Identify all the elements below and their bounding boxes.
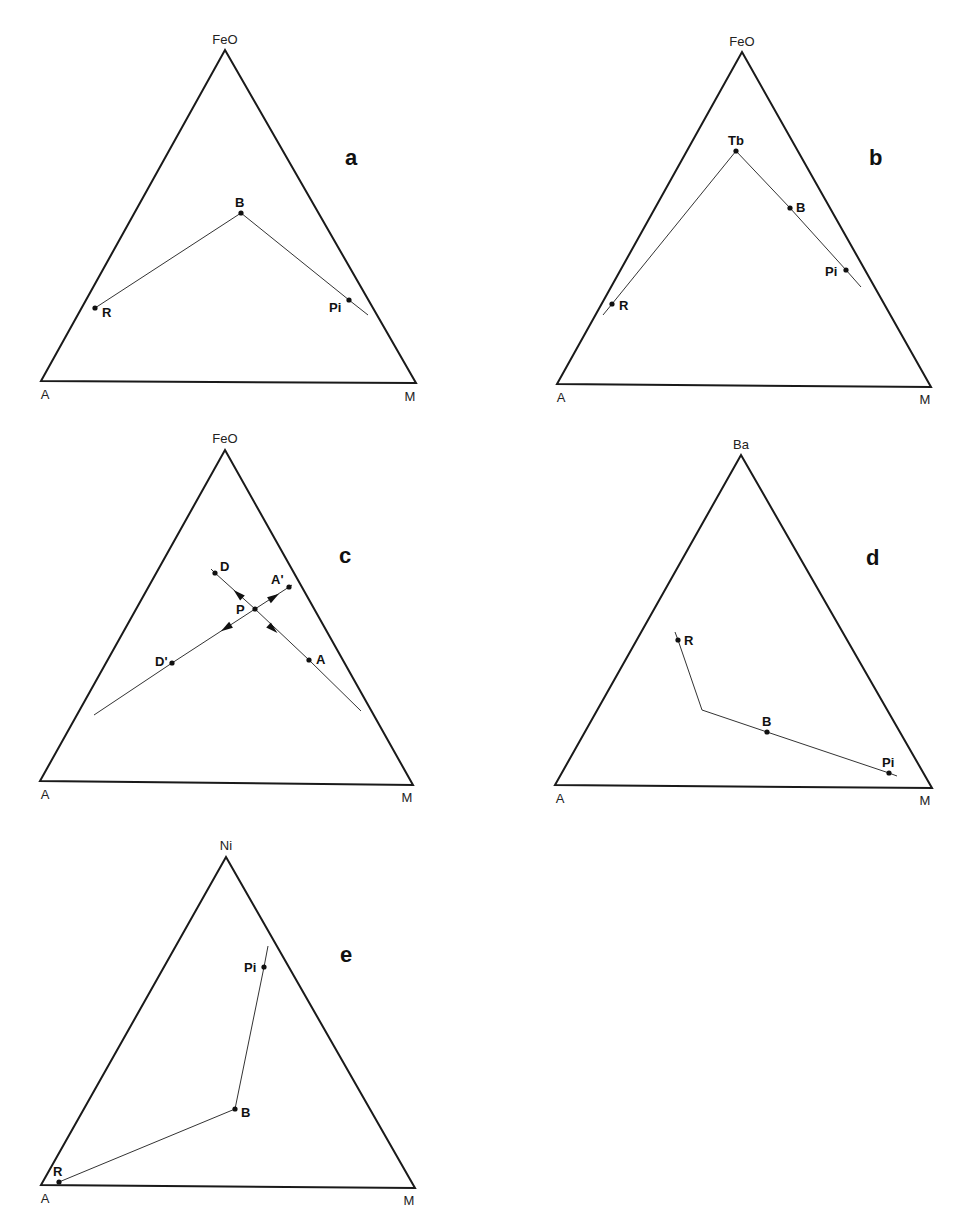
vertex-label-right: M	[920, 392, 931, 407]
point-label: Pi	[882, 755, 894, 770]
vertex-label-right: M	[405, 389, 416, 404]
ternary-panel-a: FeOAMaRBPi	[41, 32, 416, 404]
vertex-label-top: FeO	[212, 32, 237, 47]
vertex-label-top: Ba	[733, 437, 750, 452]
vertex-label-top: FeO	[729, 34, 754, 49]
vertex-label-left: A	[556, 791, 565, 806]
data-point	[252, 606, 257, 611]
ternary-panel-e: NiAMePiBR	[41, 838, 415, 1208]
data-point	[886, 770, 891, 775]
triangle-outline	[555, 455, 932, 788]
trend-line	[94, 585, 292, 715]
vertex-label-left: A	[557, 390, 566, 405]
trend-line	[59, 946, 268, 1182]
data-point	[261, 964, 266, 969]
vertex-label-left: A	[41, 1191, 50, 1206]
data-point	[286, 584, 291, 589]
point-label: R	[684, 633, 694, 648]
point-label: A'	[271, 572, 283, 587]
data-point	[92, 305, 97, 310]
point-label: B	[235, 195, 244, 210]
panel-label: e	[340, 942, 352, 967]
point-label: B	[762, 714, 771, 729]
trend-line	[211, 569, 361, 711]
vertex-label-top: FeO	[212, 431, 237, 446]
point-label: P	[236, 602, 245, 617]
point-label: R	[53, 1164, 63, 1179]
point-label: Tb	[728, 133, 744, 148]
panel-label: a	[345, 145, 358, 170]
ternary-panel-c: FeOAMcDA'PAD'	[40, 431, 413, 805]
data-point	[346, 297, 351, 302]
point-label: Pi	[244, 960, 256, 975]
point-label: A	[316, 652, 326, 667]
point-label: Pi	[825, 264, 837, 279]
point-label: D	[220, 559, 229, 574]
data-point	[843, 267, 848, 272]
point-label: B	[241, 1105, 250, 1120]
data-point	[169, 660, 174, 665]
data-point	[56, 1179, 61, 1184]
panel-label: c	[339, 543, 351, 568]
triangle-outline	[557, 52, 931, 387]
data-point	[787, 205, 792, 210]
point-label: D'	[155, 654, 167, 669]
point-label: B	[796, 200, 805, 215]
point-label: Pi	[329, 300, 341, 315]
direction-arrow-icon	[267, 591, 281, 603]
vertex-label-top: Ni	[220, 838, 232, 853]
direction-arrow-icon	[219, 622, 233, 634]
triangle-outline	[41, 857, 415, 1188]
data-point	[238, 210, 243, 215]
vertex-label-right: M	[920, 793, 931, 808]
ternary-panel-b: FeOAMbTbBPiR	[557, 34, 931, 407]
triangle-outline	[40, 450, 413, 785]
data-point	[764, 729, 769, 734]
point-label: R	[102, 305, 112, 320]
triangle-outline	[41, 50, 416, 383]
point-label: R	[619, 298, 629, 313]
panel-label: d	[866, 545, 879, 570]
ternary-diagram-figure: FeOAMaRBPiFeOAMbTbBPiRFeOAMcDA'PAD'BaAMd…	[0, 0, 971, 1225]
data-point	[212, 570, 217, 575]
data-point	[609, 301, 614, 306]
vertex-label-left: A	[41, 387, 50, 402]
data-point	[306, 657, 311, 662]
data-point	[733, 148, 738, 153]
vertex-label-right: M	[402, 790, 413, 805]
trend-line	[675, 632, 897, 776]
data-point	[232, 1106, 237, 1111]
panel-label: b	[869, 145, 882, 170]
vertex-label-left: A	[41, 787, 50, 802]
ternary-panel-d: BaAMdRBPi	[555, 437, 932, 808]
data-point	[675, 637, 680, 642]
vertex-label-right: M	[404, 1193, 415, 1208]
direction-arrow-icon	[266, 622, 280, 635]
